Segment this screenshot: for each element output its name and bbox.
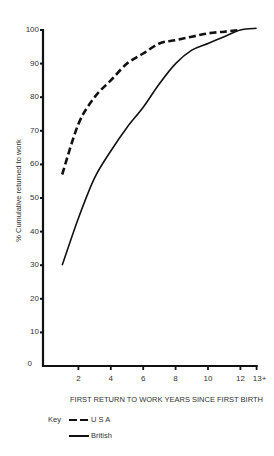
x-tick-label: 2 xyxy=(68,374,88,383)
y-tick-label: 90 xyxy=(15,59,39,68)
solid-line-swatch-icon xyxy=(69,435,89,437)
usa-series-line xyxy=(62,30,240,174)
x-tick-label: 4 xyxy=(101,374,121,383)
y-tick-label: 100 xyxy=(15,25,39,34)
y-tick-label: 10 xyxy=(15,327,39,336)
x-tick-label: 8 xyxy=(166,374,186,383)
line-chart: 0102030405060708090100 2468101213+ % Cum… xyxy=(0,0,274,456)
y-tick-label: 80 xyxy=(15,92,39,101)
legend-label-usa: U S A xyxy=(91,415,110,424)
y-tick-label: 0 xyxy=(8,359,32,368)
x-tick-label: 12 xyxy=(230,374,250,383)
y-axis-label: % Cumulative returned to work xyxy=(14,111,23,271)
x-tick-label: 13+ xyxy=(250,374,270,383)
dashed-line-swatch-icon xyxy=(69,419,89,421)
plot-area xyxy=(0,0,274,456)
british-series-line xyxy=(62,28,256,265)
y-tick-label: 20 xyxy=(15,294,39,303)
legend-key-label: Key xyxy=(48,415,61,424)
legend-label-british: British xyxy=(91,431,112,440)
x-tick-label: 10 xyxy=(198,374,218,383)
x-tick-label: 6 xyxy=(133,374,153,383)
x-axis-label: FIRST RETURN TO WORK YEARS SINCE FIRST B… xyxy=(70,395,270,404)
